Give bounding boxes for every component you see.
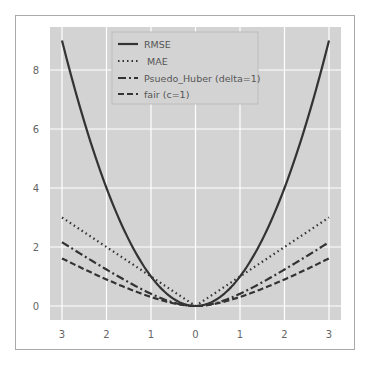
y-tick-label: 0 [33,301,39,312]
y-axis-ticks: 02468 [33,65,39,312]
legend-label-mae: MAE [147,56,168,67]
y-tick-label: 6 [33,124,39,135]
x-tick-label: 2 [281,329,287,340]
x-tick-label: 0 [192,329,198,340]
x-tick-label: 1 [148,329,154,340]
x-axis-ticks: 3210123 [59,329,332,340]
legend-label-rmse: RMSE [144,39,171,50]
y-tick-label: 8 [33,65,39,76]
x-tick-label: 3 [59,329,65,340]
y-tick-label: 2 [33,242,39,253]
x-tick-label: 3 [326,329,332,340]
legend-label-fair: fair (c=1) [144,89,189,100]
legend: RMSE MAE Psuedo_Huber (delta=1) fair (c=… [112,32,260,104]
x-tick-label: 1 [237,329,243,340]
line-chart: 02468 3210123 RMSE MAE Psuedo_Huber (del… [0,0,366,365]
legend-label-pseudo-huber: Psuedo_Huber (delta=1) [144,73,260,84]
x-tick-label: 2 [103,329,109,340]
y-tick-label: 4 [33,183,39,194]
